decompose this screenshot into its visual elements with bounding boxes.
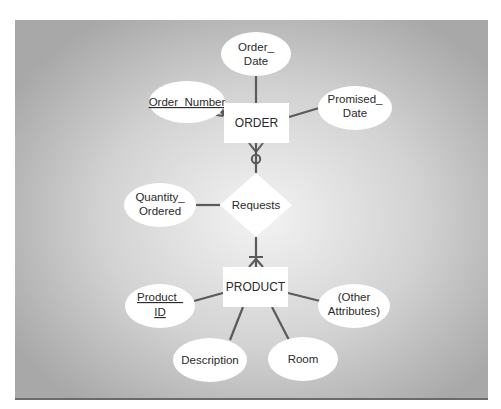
svg-text:Attributes): Attributes) xyxy=(328,305,381,317)
svg-text:PRODUCT: PRODUCT xyxy=(226,280,286,294)
attribute-order-number[interactable]: Order_Number xyxy=(149,81,226,123)
attribute-quantity-ordered[interactable]: Quantity_ Ordered xyxy=(124,183,196,227)
svg-text:Requests: Requests xyxy=(232,199,281,211)
svg-text:Room: Room xyxy=(288,353,319,365)
er-diagram: Order_ Date Order_Number Promised_ Date … xyxy=(0,0,501,409)
svg-text:Ordered: Ordered xyxy=(139,205,181,217)
primary-key-product-id: Product_ xyxy=(137,291,184,303)
svg-text:Description: Description xyxy=(181,354,239,366)
attribute-room[interactable]: Room xyxy=(268,337,338,381)
svg-text:ORDER: ORDER xyxy=(235,116,279,130)
svg-text:Quantity_: Quantity_ xyxy=(135,191,185,203)
svg-text:Date: Date xyxy=(244,55,268,67)
svg-text:Promised_: Promised_ xyxy=(328,93,384,105)
entity-order[interactable]: ORDER xyxy=(224,103,289,143)
entity-product[interactable]: PRODUCT xyxy=(223,267,288,307)
attribute-other[interactable]: (Other Attributes) xyxy=(318,284,390,328)
panel-bottom-edge xyxy=(15,398,488,400)
svg-text:Order_: Order_ xyxy=(238,41,274,53)
attribute-promised-date[interactable]: Promised_ Date xyxy=(318,86,392,130)
attribute-product-id[interactable]: Product_ ID xyxy=(125,284,195,328)
svg-text:(Other: (Other xyxy=(338,291,371,303)
svg-text:Date: Date xyxy=(343,107,367,119)
attribute-order-date[interactable]: Order_ Date xyxy=(221,32,291,76)
svg-text:ID: ID xyxy=(154,306,166,318)
primary-key-order-number: Order_Number xyxy=(149,96,226,108)
attribute-description[interactable]: Description xyxy=(173,338,247,382)
